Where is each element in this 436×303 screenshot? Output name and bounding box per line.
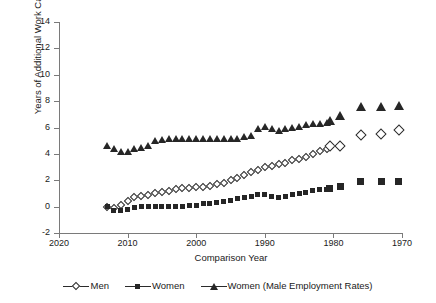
data-point <box>335 111 345 120</box>
data-point <box>247 132 255 139</box>
data-point <box>376 102 386 111</box>
data-point <box>325 116 335 125</box>
data-point <box>394 101 404 110</box>
series-3 <box>0 0 436 303</box>
data-point <box>356 102 366 111</box>
chart-figure: -202468101214 202020102000199019801970 Y… <box>0 0 436 303</box>
